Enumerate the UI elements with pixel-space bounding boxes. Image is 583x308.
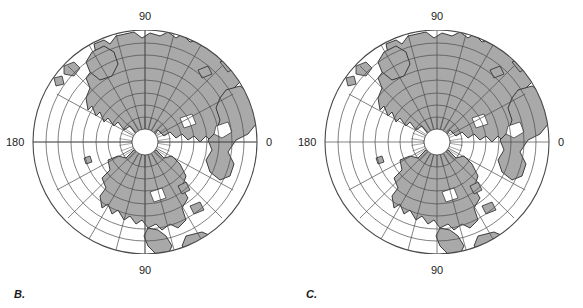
- landmass-australia-c: [474, 232, 512, 254]
- longitude-label-bottom-c: 90: [431, 264, 443, 276]
- longitude-label-left-b: 180: [6, 136, 24, 148]
- island-b-2: [54, 76, 64, 86]
- pole-hole-c: [424, 129, 450, 155]
- polar-map-svg-c: [322, 30, 552, 254]
- figure-container: 90 180 0 90: [0, 0, 583, 308]
- longitude-label-right-c: 0: [558, 136, 564, 148]
- panel-b: 90 180 0 90: [0, 0, 291, 308]
- longitude-label-right-b: 0: [266, 136, 272, 148]
- longitude-label-top-c: 90: [431, 10, 443, 22]
- polar-map-svg-b: [30, 30, 260, 254]
- pole-hole-b: [132, 129, 158, 155]
- longitude-label-top-b: 90: [139, 10, 151, 22]
- panel-c: 90 180 0 90: [292, 0, 583, 308]
- panel-label-c: C.: [306, 288, 317, 300]
- panel-label-b: B.: [14, 288, 25, 300]
- map-b: 90 180 0 90: [30, 8, 260, 276]
- map-c: 90 180 0 90: [322, 8, 552, 276]
- longitude-label-bottom-b: 90: [139, 264, 151, 276]
- landmass-australia-b: [182, 232, 220, 254]
- longitude-label-left-c: 180: [298, 136, 316, 148]
- island-c-2: [346, 76, 356, 86]
